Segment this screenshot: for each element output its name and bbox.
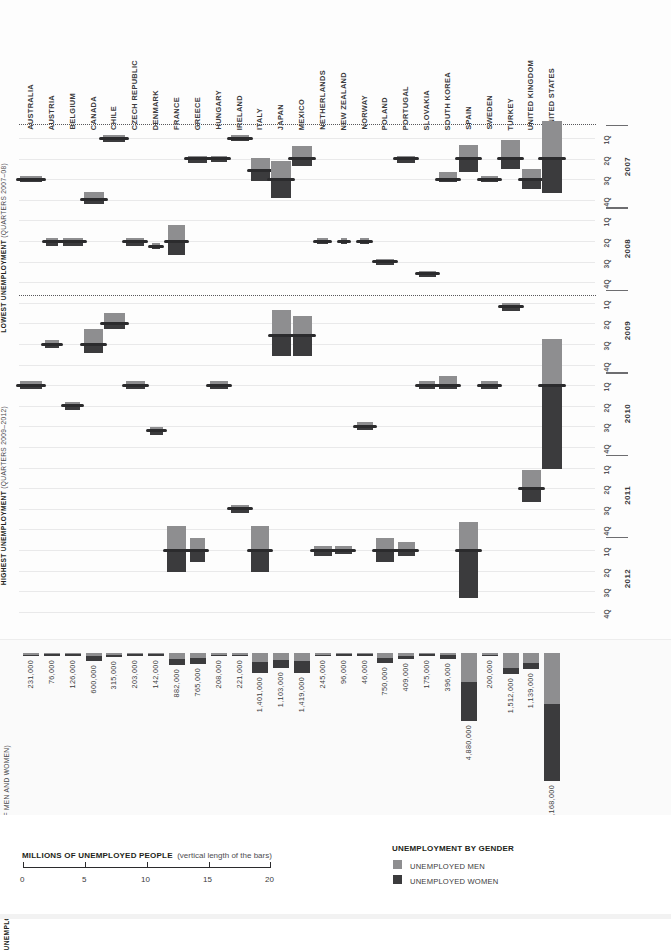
- quarter-label-2011-4Q: 4Q: [604, 526, 611, 537]
- bar-segment-men: [293, 316, 312, 336]
- bar-zero-marker: [99, 137, 129, 140]
- bar-zero-marker: [331, 549, 356, 552]
- bar-segment-men: [272, 310, 291, 336]
- quarter-label-text: 3Q: [604, 506, 611, 516]
- bar-zero-marker: [16, 384, 46, 387]
- range-bar-greece: [188, 156, 207, 163]
- country-label-text: TURKEY: [507, 98, 514, 131]
- increase-bar-sweden: [482, 653, 498, 656]
- gender-legend-title: UNEMPLOYMENT BY GENDER: [392, 844, 514, 853]
- increase-segment-women: [190, 658, 206, 664]
- increase-bar-japan: [273, 653, 289, 668]
- bar-zero-marker: [207, 157, 231, 160]
- bar-zero-marker: [477, 384, 502, 387]
- bar-zero-marker: [80, 343, 107, 346]
- bar-zero-marker: [288, 157, 316, 160]
- bar-segment-men: [542, 121, 562, 159]
- country-label-turkey: TURKEY: [507, 98, 514, 131]
- quarter-label-text: 3Q: [604, 423, 611, 433]
- bar-segment-women: [522, 179, 541, 189]
- gridline-2008-3Q: [19, 262, 595, 263]
- increase-value-text: 396,000: [444, 663, 451, 691]
- country-label-netherlands: NETHERLANDS: [319, 70, 326, 130]
- country-header: AUSTRALIAAUSTRIABELGIUMCANADACHILECZECH …: [0, 40, 671, 130]
- quarter-label-2009-4Q: 4Q: [604, 362, 611, 373]
- quarter-label-2011-1Q: 1Q: [604, 465, 611, 476]
- country-label-united-kingdom: UNITED KINGDOM: [527, 60, 534, 130]
- range-bar-new-zealand: [335, 546, 352, 554]
- increase-value-south-korea: 396,000: [444, 663, 451, 693]
- increase-bar-austria: [44, 653, 60, 656]
- quarter-label-text: 2Q: [604, 238, 611, 248]
- increase-panel: UNEMPLOYMENT INCREASE (TOTAL OF MEN AND …: [0, 639, 671, 817]
- quarter-label-text: 2Q: [604, 568, 611, 578]
- range-bar-austria: [45, 340, 59, 348]
- bar-segment-women: [459, 550, 478, 598]
- range-bar-norway: [360, 238, 369, 244]
- increase-value-text: 175,000: [423, 660, 430, 688]
- increase-segment-women: [273, 660, 289, 668]
- quarter-label-2012-2Q: 2Q: [604, 568, 611, 579]
- lowest-highest-dotted: [19, 295, 596, 296]
- year-label-2011: 2011: [624, 486, 632, 507]
- increase-value-text: 203,000: [131, 660, 138, 688]
- increase-segment-women: [482, 655, 498, 656]
- bar-segment-women: [168, 241, 185, 255]
- quarter-label-text: 3Q: [604, 176, 611, 186]
- quarter-label-text: 3Q: [604, 259, 611, 269]
- increase-value-text: 142,000: [152, 660, 159, 688]
- country-label-text: FRANCE: [173, 97, 180, 130]
- increase-value-czech-republic: 203,000: [131, 660, 138, 690]
- bar-zero-marker: [247, 169, 274, 172]
- quarter-label-text: 1Q: [604, 135, 611, 145]
- quarter-label-text: 2Q: [604, 320, 611, 330]
- increase-bar-chile: [106, 653, 122, 657]
- range-bar-united-states: [542, 121, 562, 193]
- bar-zero-marker: [100, 322, 129, 325]
- increase-value-japan: 1,103,000: [277, 672, 284, 708]
- bar-zero-marker: [146, 429, 167, 432]
- range-bar-slovakia: [419, 271, 436, 277]
- bar-zero-marker: [372, 260, 398, 263]
- quarter-label-2008-2Q: 2Q: [604, 238, 611, 249]
- gridline-2009-4Q: [19, 365, 595, 366]
- increase-bar-belgium: [65, 653, 81, 656]
- country-label-greece: GREECE: [194, 97, 201, 130]
- range-bar-japan: [271, 161, 291, 198]
- gridline-2008-2Q: [19, 241, 595, 242]
- bar-zero-marker: [289, 334, 316, 337]
- quarter-label-2010-2Q: 2Q: [604, 403, 611, 414]
- quarter-label-text: 1Q: [604, 465, 611, 475]
- gridline-2012-4Q: [19, 612, 595, 613]
- increase-segment-women: [357, 654, 373, 655]
- year-label-2007: 2007: [624, 157, 632, 178]
- bar-segment-women: [542, 385, 562, 469]
- increase-segment-women: [503, 668, 519, 674]
- bar-zero-marker: [247, 549, 273, 552]
- range-bar-australia: [20, 176, 42, 182]
- increase-segment-men: [544, 653, 560, 704]
- range-bar-canada: [84, 329, 103, 353]
- bar-zero-marker: [538, 157, 566, 160]
- gridline-2010-4Q: [19, 447, 595, 448]
- increase-segment-women: [440, 655, 456, 658]
- year-label-text: 2007: [624, 157, 632, 176]
- year-rule-2009: [606, 290, 628, 291]
- bar-zero-marker: [313, 240, 332, 243]
- range-bar-chile: [103, 135, 125, 142]
- caption-lowest-sub: (QUARTERS 2007–08): [0, 163, 7, 238]
- range-bar-norway: [357, 422, 373, 430]
- quarter-label-2009-1Q: 1Q: [604, 300, 611, 311]
- gridline-2012-3Q: [19, 591, 595, 592]
- increase-segment-women: [398, 656, 414, 659]
- range-bar-turkey: [501, 140, 520, 169]
- range-bar-belgium: [63, 238, 83, 246]
- caption-highest-sub: (QUARTERS 2009–2012): [0, 406, 7, 489]
- range-bar-austria: [46, 238, 58, 246]
- range-bar-turkey: [502, 303, 520, 311]
- quarter-label-text: 4Q: [604, 362, 611, 372]
- bar-segment-women: [542, 159, 562, 193]
- range-bar-mexico: [292, 146, 312, 166]
- quarter-label-2011-2Q: 2Q: [604, 485, 611, 496]
- range-bar-japan: [272, 310, 291, 356]
